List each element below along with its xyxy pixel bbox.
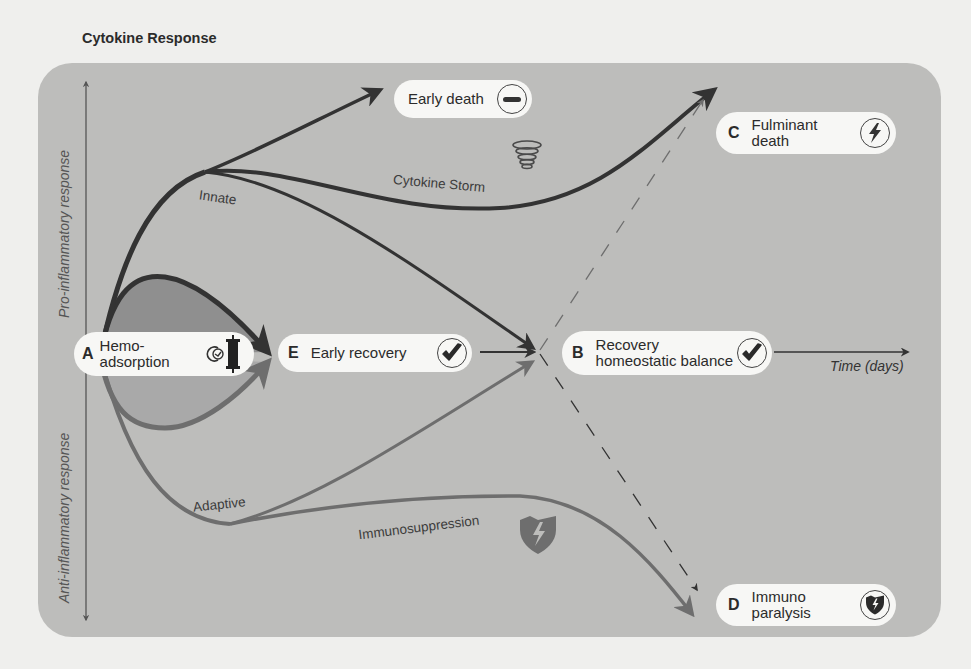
innate-to-recovery-curve <box>205 172 533 348</box>
y-axis-down-label: Anti-inflammatory response <box>56 433 72 603</box>
node-d-line1: Immuno <box>752 588 806 605</box>
node-a-hemoadsorption: A Hemo- adsorption <box>74 332 254 376</box>
node-d-immunoparalysis: D Immuno paralysis <box>716 584 896 626</box>
node-e-text: Early recovery <box>311 345 407 361</box>
early-death-curve <box>205 90 380 172</box>
node-a-line2: adsorption <box>100 353 170 370</box>
node-e-early-recovery: E Early recovery <box>278 334 472 372</box>
node-c-fulminant-death: C Fulminant death <box>716 112 896 154</box>
node-c-line1: Fulminant <box>752 116 818 133</box>
node-d-letter: D <box>728 596 740 614</box>
node-a-line1: Hemo- <box>100 337 145 354</box>
node-c-line2: death <box>752 132 790 149</box>
node-b-line1: Recovery <box>596 336 659 353</box>
node-b-line2: homeostatic balance <box>596 352 734 369</box>
node-b-letter: B <box>572 344 584 362</box>
node-d-line2: paralysis <box>752 604 811 621</box>
adaptive-to-recovery-curve <box>230 362 532 524</box>
node-b-recovery: B Recovery homeostatic balance <box>562 331 772 375</box>
node-early-death: Early death <box>394 80 532 118</box>
node-a-letter: A <box>82 345 94 363</box>
node-c-text: Fulminant death <box>752 117 818 149</box>
early-death-label: Early death <box>408 91 484 107</box>
node-a-text: Hemo- adsorption <box>100 338 170 370</box>
hemoadsorption-cartridge-icon <box>206 334 246 374</box>
b-to-d-dashed <box>540 354 697 590</box>
b-to-c-dashed <box>540 100 703 350</box>
minus-icon <box>497 84 527 114</box>
node-b-text: Recovery homeostatic balance <box>596 337 734 369</box>
node-d-text: Immuno paralysis <box>752 589 811 621</box>
y-axis-up-label: Pro-inflammatory response <box>56 150 72 318</box>
node-e-letter: E <box>288 344 299 362</box>
node-c-letter: C <box>728 124 740 142</box>
tornado-icon <box>513 141 541 169</box>
checkmark-icon <box>737 338 767 368</box>
lightning-icon <box>860 118 890 148</box>
checkmark-icon <box>437 338 467 368</box>
shield-lightning-icon <box>860 590 890 620</box>
time-axis-label: Time (days) <box>830 358 904 374</box>
shield-lightning-icon <box>520 516 556 554</box>
